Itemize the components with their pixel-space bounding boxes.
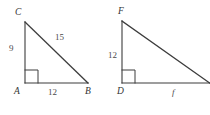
vertex-label-d: D (117, 87, 124, 97)
vertex-label-c: C (15, 8, 21, 18)
vertex-label-a: A (14, 87, 20, 97)
side-length-label-cb: 15 (55, 33, 64, 42)
right-angle-mark-d (122, 70, 135, 83)
geometry-figure: C A B 9 12 15 F D 12 f (0, 0, 210, 115)
side-length-label-ab: 12 (48, 88, 57, 97)
side-length-label-fd: 12 (108, 51, 117, 60)
side-length-label-df: f (172, 88, 175, 97)
triangle-def-shape (122, 21, 210, 86)
right-angle-mark-a (25, 70, 38, 83)
vertex-label-f: F (118, 7, 124, 17)
vertex-label-b: B (85, 87, 91, 97)
triangles-drawing (0, 0, 210, 115)
side-length-label-ac: 9 (9, 44, 14, 53)
